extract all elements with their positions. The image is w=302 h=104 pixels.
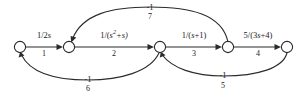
node-n5[interactable] — [281, 41, 292, 52]
branch-5-gain-label: -1 — [219, 71, 226, 80]
branch-2-gain-label: 1/(s2+s) — [100, 31, 128, 40]
branch-6-index-label: 6 — [86, 85, 90, 93]
branch-3-index-label: 3 — [192, 50, 196, 58]
branch-4-gain-label: 5/(3s+4) — [244, 31, 273, 40]
node-n2[interactable] — [63, 41, 74, 52]
branch-4-gain-suffix: +4) — [261, 30, 273, 40]
branch-2-arrowhead — [148, 44, 155, 50]
branch-2-gain-suffix: +s) — [116, 30, 128, 40]
branch-3-gain-label: 1/(s+1) — [182, 31, 207, 40]
branch-5-index-label: 5 — [221, 82, 225, 90]
branch-1-gain-label: 1/2s — [37, 31, 51, 40]
signal-flow-graph-figure: 1/2s 1 1/(s2+s) 2 1/(s+1) 3 5/(3s+4) 4 -… — [0, 0, 302, 104]
branch-2-index-label: 2 — [112, 50, 116, 58]
branch-6-gain-label: -1 — [84, 75, 91, 84]
node-n1[interactable] — [14, 41, 25, 52]
node-n4[interactable] — [222, 41, 233, 52]
branch-1-gain-variable: s — [48, 30, 51, 40]
branch-4-arrowhead — [275, 44, 282, 50]
branch-3-gain-suffix: +1) — [194, 30, 206, 40]
branch-7-gain-label: -1 — [146, 3, 153, 12]
branch-1-gain-numerator: 1/2 — [37, 30, 48, 40]
branch-7-index-label: 7 — [148, 13, 152, 21]
node-n3[interactable] — [154, 41, 165, 52]
branch-4-gain-prefix: 5/(3 — [244, 30, 258, 40]
branch-3-arrowhead — [216, 44, 223, 50]
branch-1-index-label: 1 — [42, 50, 46, 58]
branch-4-index-label: 4 — [256, 50, 260, 58]
branch-1-arrowhead — [57, 44, 64, 50]
